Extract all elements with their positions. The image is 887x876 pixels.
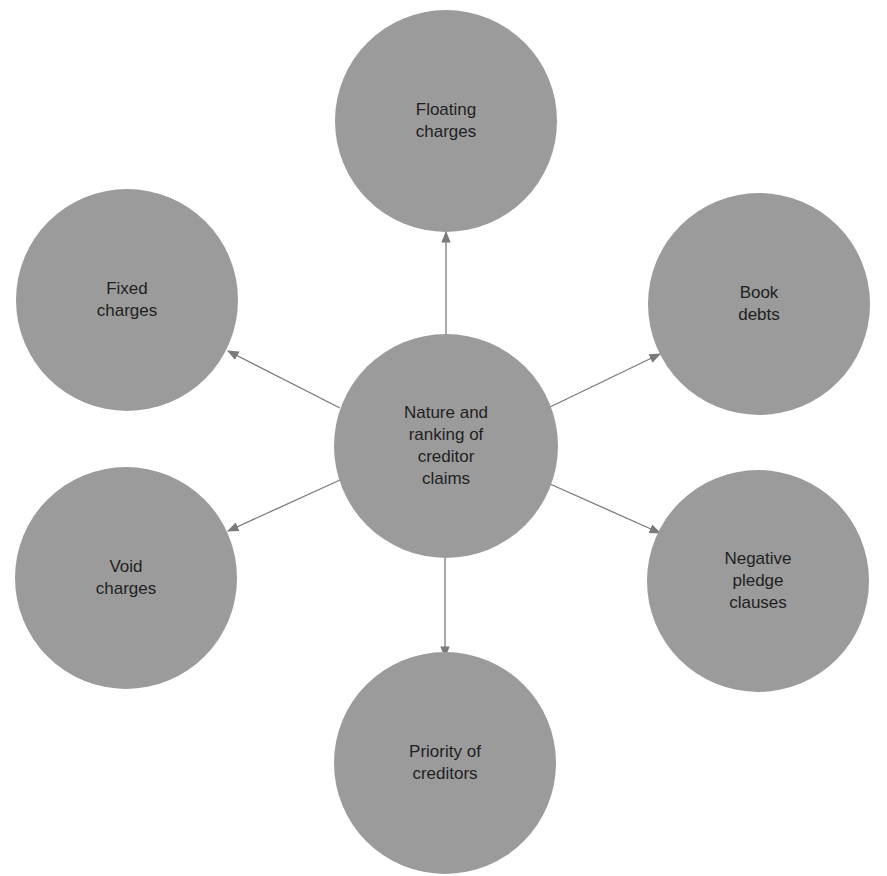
node-label: Priority of creditors xyxy=(409,741,481,785)
node-priority-of-creditors: Priority of creditors xyxy=(334,652,556,874)
node-void-charges: Void charges xyxy=(15,467,237,689)
node-label: Fixed charges xyxy=(97,278,157,322)
node-label: Negative pledge clauses xyxy=(724,548,791,614)
arrow-connector-book-debts xyxy=(550,354,660,407)
mind-map-diagram: Nature and ranking of creditor claims Fl… xyxy=(0,0,887,876)
node-negative-pledge-clauses: Negative pledge clauses xyxy=(647,470,869,692)
center-node-label: Nature and ranking of creditor claims xyxy=(404,402,488,490)
arrow-connector-fixed-charges xyxy=(228,351,340,408)
node-book-debts: Book debts xyxy=(648,193,870,415)
arrow-connector-negative-pledge-clauses xyxy=(550,484,660,533)
arrow-connector-void-charges xyxy=(228,480,340,531)
node-fixed-charges: Fixed charges xyxy=(16,189,238,411)
center-node: Nature and ranking of creditor claims xyxy=(334,334,558,558)
node-label: Void charges xyxy=(96,556,156,600)
node-label: Floating charges xyxy=(416,99,476,143)
node-floating-charges: Floating charges xyxy=(335,10,557,232)
node-label: Book debts xyxy=(738,282,780,326)
